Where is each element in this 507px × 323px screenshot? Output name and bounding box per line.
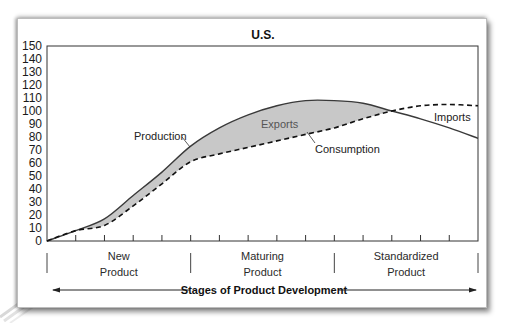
y-tick-label: 130 — [22, 65, 42, 79]
y-tick-label: 90 — [29, 117, 43, 131]
stage-label-line1: Standardized — [374, 250, 439, 262]
plot-area — [47, 46, 478, 241]
y-tick-label: 60 — [29, 156, 43, 170]
y-tick-label: 140 — [22, 52, 42, 66]
y-tick-label: 80 — [29, 130, 43, 144]
stage-label-line2: Product — [387, 266, 425, 278]
y-tick-label: 50 — [29, 169, 43, 183]
stage-labels: NewProductMaturingProductStandardizedPro… — [47, 250, 478, 278]
x-axis-label-group: Stages of Product Development — [52, 284, 477, 296]
y-tick-label: 10 — [29, 221, 43, 235]
annotation-production: Production — [134, 130, 187, 142]
x-axis-label: Stages of Product Development — [181, 284, 348, 296]
y-tick-label: 20 — [29, 208, 43, 222]
y-tick-label: 40 — [29, 182, 43, 196]
annotation-exports: Exports — [261, 118, 299, 130]
y-tick-label: 120 — [22, 78, 42, 92]
stage-label-line1: New — [108, 250, 130, 262]
product-life-cycle-chart: U.S. 01020304050607080901001101201301401… — [0, 0, 507, 323]
y-tick-label: 30 — [29, 195, 43, 209]
arrow-left-icon — [52, 288, 60, 293]
annotation-consumption: Consumption — [315, 143, 380, 155]
y-tick-label: 150 — [22, 39, 42, 53]
y-tick-label: 100 — [22, 104, 42, 118]
stage-label-line1: Maturing — [241, 250, 284, 262]
y-axis-ticks: 0102030405060708090100110120130140150 — [22, 39, 42, 248]
y-tick-label: 0 — [35, 234, 42, 248]
exports-shaded-area — [47, 100, 392, 241]
annotation-imports: Imports — [434, 111, 471, 123]
stage-label-line2: Product — [244, 266, 282, 278]
y-tick-label: 70 — [29, 143, 43, 157]
arrow-right-icon — [469, 288, 477, 293]
stage-label-line2: Product — [100, 266, 138, 278]
chart-title: U.S. — [251, 28, 274, 42]
y-tick-label: 110 — [23, 91, 42, 105]
